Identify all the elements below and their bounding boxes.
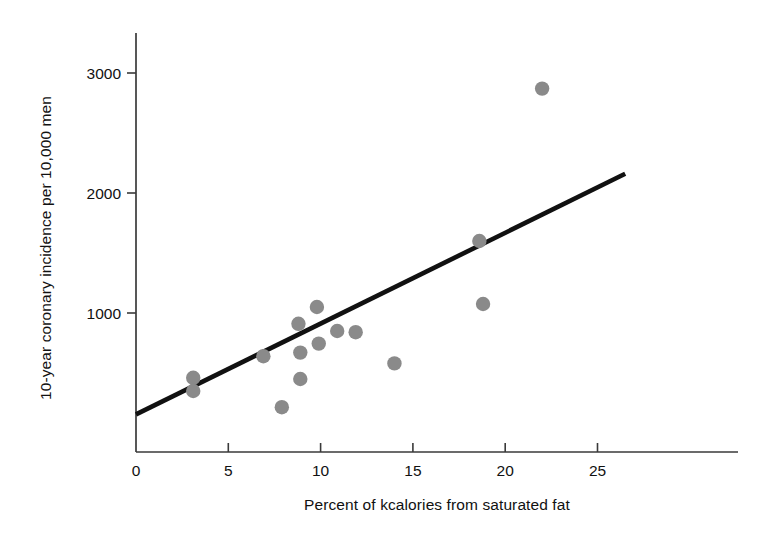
data-point — [476, 297, 490, 311]
data-point — [275, 400, 289, 414]
x-axis-tick-label: 5 — [224, 462, 233, 479]
y-axis-tick-label: 3000 — [87, 65, 122, 82]
y-axis-title: 10-year coronary incidence per 10,000 me… — [37, 38, 55, 458]
data-point — [330, 324, 344, 338]
data-point — [291, 317, 305, 331]
data-point — [293, 372, 307, 386]
data-point — [310, 300, 324, 314]
data-point — [256, 349, 270, 363]
data-point — [312, 336, 326, 350]
x-axis-tick-label: 20 — [497, 462, 515, 479]
data-point — [535, 81, 549, 95]
scatter-plot-canvas: 1000200030000510152025 — [0, 0, 784, 557]
chart-figure: 1000200030000510152025 10-year coronary … — [0, 0, 784, 557]
y-axis-tick-label: 1000 — [87, 305, 122, 322]
x-axis-tick-label: 10 — [312, 462, 330, 479]
regression-line — [136, 174, 625, 415]
data-point — [387, 356, 401, 370]
data-point — [472, 234, 486, 248]
data-point — [186, 384, 200, 398]
data-point — [186, 371, 200, 385]
x-axis-title: Percent of kcalories from saturated fat — [136, 496, 738, 514]
y-axis-tick-label: 2000 — [87, 185, 122, 202]
x-axis-tick-label: 0 — [132, 462, 141, 479]
x-axis-tick-label: 25 — [589, 462, 606, 479]
x-axis-tick-label: 15 — [404, 462, 421, 479]
data-point — [348, 325, 362, 339]
data-point — [293, 345, 307, 359]
